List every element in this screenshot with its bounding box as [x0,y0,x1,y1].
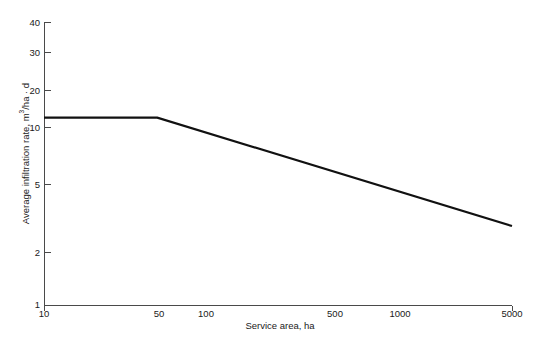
chart-figure: 40 30 20 10 5 2 1 10 50 100 500 1000 500… [0,0,542,340]
plot-area [0,0,542,340]
data-series-line [44,118,512,226]
